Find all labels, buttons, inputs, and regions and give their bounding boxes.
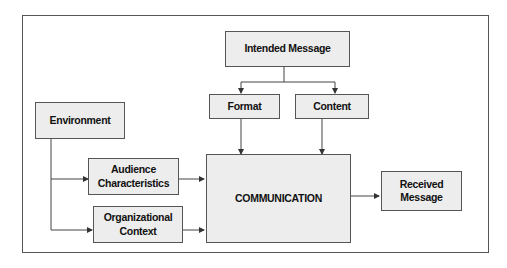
node-communication: COMMUNICATION bbox=[206, 154, 351, 243]
node-label-line1: Organizational bbox=[104, 211, 173, 224]
node-label: Content bbox=[313, 100, 351, 113]
node-label-line1: Audience bbox=[111, 163, 156, 176]
node-label-line2: Characteristics bbox=[98, 177, 169, 190]
node-label-line2: Context bbox=[120, 225, 157, 238]
node-label-line1: Received bbox=[400, 178, 444, 191]
node-label: Intended Message bbox=[244, 42, 330, 55]
node-intended-message: Intended Message bbox=[225, 31, 350, 67]
node-label: COMMUNICATION bbox=[235, 192, 322, 205]
node-label: Environment bbox=[50, 114, 111, 127]
node-format: Format bbox=[209, 94, 280, 119]
node-content: Content bbox=[295, 94, 369, 119]
node-audience-characteristics: Audience Characteristics bbox=[88, 158, 179, 195]
node-environment: Environment bbox=[35, 102, 125, 139]
node-label-line2: Message bbox=[400, 191, 442, 204]
node-label: Format bbox=[228, 100, 262, 113]
node-received-message: Received Message bbox=[381, 171, 462, 211]
node-organizational-context: Organizational Context bbox=[93, 206, 183, 243]
